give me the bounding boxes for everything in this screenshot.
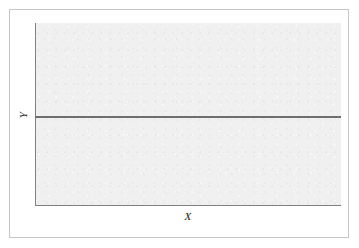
- data-series-line: [35, 116, 341, 118]
- plot-panel: [35, 23, 341, 205]
- y-axis-line: [35, 23, 36, 206]
- x-axis-label: X: [0, 209, 359, 223]
- x-axis-line: [35, 205, 341, 206]
- y-axis-label: Y: [16, 106, 30, 124]
- plot-canvas: Y X: [0, 0, 359, 248]
